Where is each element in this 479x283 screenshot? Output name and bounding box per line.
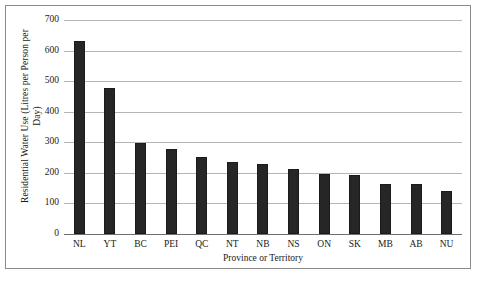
x-axis-category-label-qc: QC xyxy=(195,240,208,250)
x-axis-category-label-pei: PEI xyxy=(164,240,178,250)
y-axis-tick-label: 200 xyxy=(45,168,59,178)
gridline-0: 0 xyxy=(64,234,462,235)
bar-qc[interactable] xyxy=(196,157,207,234)
bar-slot-sk: SK xyxy=(339,20,370,234)
bar-slot-pei: PEI xyxy=(156,20,187,234)
bar-pei[interactable] xyxy=(166,149,177,234)
y-axis-tick-label: 0 xyxy=(54,229,59,239)
bar-slot-ab: AB xyxy=(401,20,432,234)
x-axis-category-label-nt: NT xyxy=(226,240,239,250)
plot-area: 0100200300400500600700 NLYTBCPEIQCNTNBNS… xyxy=(64,20,462,234)
bar-slot-nu: NU xyxy=(431,20,462,234)
bar-nb[interactable] xyxy=(257,164,268,234)
bar-slot-qc: QC xyxy=(186,20,217,234)
bar-slot-ns: NS xyxy=(278,20,309,234)
chart-figure: Residential Water Use (Litres per Person… xyxy=(5,5,471,269)
y-axis-title: Residential Water Use (Litres per Person… xyxy=(14,6,48,226)
bar-ab[interactable] xyxy=(411,184,422,234)
x-axis-category-label-on: ON xyxy=(317,240,331,250)
bar-on[interactable] xyxy=(319,174,330,234)
y-axis-tick-label: 100 xyxy=(45,199,59,209)
bar-slot-nb: NB xyxy=(248,20,279,234)
x-axis-category-label-sk: SK xyxy=(349,240,361,250)
x-axis-category-label-bc: BC xyxy=(134,240,147,250)
x-axis-category-label-ns: NS xyxy=(287,240,299,250)
bar-slot-nl: NL xyxy=(64,20,95,234)
bar-slot-nt: NT xyxy=(217,20,248,234)
bar-ns[interactable] xyxy=(288,169,299,234)
bar-slot-mb: MB xyxy=(370,20,401,234)
bar-slot-yt: YT xyxy=(95,20,126,234)
y-axis-tick-label: 700 xyxy=(45,15,59,25)
bar-yt[interactable] xyxy=(104,88,115,234)
x-axis-category-label-yt: YT xyxy=(104,240,117,250)
bar-series: NLYTBCPEIQCNTNBNSONSKMBABNU xyxy=(64,20,462,234)
y-axis-tick-label: 400 xyxy=(45,107,59,117)
bar-sk[interactable] xyxy=(349,175,360,234)
y-axis-title-line-1: Residential Water Use (Litres per Person… xyxy=(19,29,31,203)
x-axis-category-label-nb: NB xyxy=(256,240,269,250)
bar-nl[interactable] xyxy=(74,41,85,234)
bar-slot-bc: BC xyxy=(125,20,156,234)
x-axis-title: Province or Territory xyxy=(64,254,462,264)
x-axis-category-label-nu: NU xyxy=(440,240,454,250)
y-axis-tick-label: 300 xyxy=(45,138,59,148)
y-axis-tick-label: 500 xyxy=(45,76,59,86)
x-axis-category-label-ab: AB xyxy=(409,240,422,250)
bar-bc[interactable] xyxy=(135,143,146,234)
y-axis-tick-label: 600 xyxy=(45,46,59,56)
x-axis-category-label-mb: MB xyxy=(378,240,393,250)
bar-mb[interactable] xyxy=(380,184,391,234)
bar-nt[interactable] xyxy=(227,162,238,234)
x-axis-category-label-nl: NL xyxy=(73,240,86,250)
bar-nu[interactable] xyxy=(441,191,452,234)
bar-slot-on: ON xyxy=(309,20,340,234)
y-axis-title-line-2: Day) xyxy=(31,106,43,125)
